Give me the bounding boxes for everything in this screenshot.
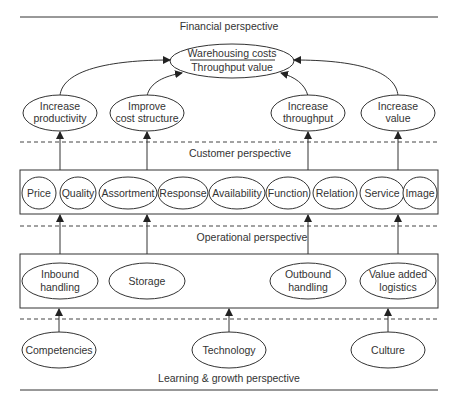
svg-text:logistics: logistics bbox=[379, 281, 416, 293]
svg-text:Increase: Increase bbox=[40, 100, 80, 112]
operational-item-value-added-logistics: Value added logistics bbox=[360, 263, 436, 299]
financial-perspective-label: Financial perspective bbox=[180, 20, 279, 32]
svg-text:Response: Response bbox=[159, 187, 206, 199]
balanced-scorecard-diagram: Financial perspective Warehousing costs … bbox=[0, 0, 457, 407]
svg-text:Increase: Increase bbox=[378, 100, 418, 112]
svg-text:Technology: Technology bbox=[202, 344, 256, 356]
customer-item-image: Image bbox=[403, 177, 437, 209]
svg-text:Value added: Value added bbox=[369, 268, 427, 280]
learning-item-technology: Technology bbox=[192, 332, 266, 368]
customer-item-response: Response bbox=[158, 177, 208, 209]
svg-text:value: value bbox=[385, 112, 410, 124]
arrow-cost-to-ratio bbox=[147, 73, 182, 96]
customer-item-price: Price bbox=[22, 177, 56, 209]
svg-text:Function: Function bbox=[268, 187, 308, 199]
ratio-numerator: Warehousing costs bbox=[188, 47, 277, 59]
svg-text:handling: handling bbox=[288, 281, 328, 293]
svg-text:throughput: throughput bbox=[283, 112, 333, 124]
svg-text:handling: handling bbox=[40, 281, 80, 293]
svg-text:Culture: Culture bbox=[371, 344, 405, 356]
customer-perspective-label: Customer perspective bbox=[189, 147, 291, 159]
arrow-productivity-to-ratio bbox=[60, 60, 170, 96]
svg-text:Storage: Storage bbox=[129, 275, 166, 287]
learning-item-culture: Culture bbox=[351, 332, 425, 368]
svg-text:Availability: Availability bbox=[212, 187, 262, 199]
svg-text:Quality: Quality bbox=[62, 187, 95, 199]
svg-text:Increase: Increase bbox=[288, 100, 328, 112]
goal-improve-cost-structure: Improve cost structure bbox=[110, 95, 184, 131]
svg-text:Outbound: Outbound bbox=[285, 268, 331, 280]
operational-item-outbound-handling: Outbound handling bbox=[270, 263, 346, 299]
svg-text:Service: Service bbox=[364, 187, 399, 199]
goal-increase-productivity: Increase productivity bbox=[23, 95, 97, 131]
svg-text:Image: Image bbox=[405, 187, 434, 199]
learning-perspective-label: Learning & growth perspective bbox=[158, 372, 300, 384]
ratio-node: Warehousing costs Throughput value bbox=[170, 44, 294, 78]
arrow-throughput-to-ratio bbox=[281, 73, 308, 96]
svg-text:Inbound: Inbound bbox=[41, 268, 79, 280]
learning-item-competencies: Competencies bbox=[22, 332, 96, 368]
customer-item-availability: Availability bbox=[209, 177, 265, 209]
ratio-denominator: Throughput value bbox=[191, 61, 273, 73]
goal-increase-value: Increase value bbox=[361, 95, 435, 131]
customer-item-function: Function bbox=[266, 177, 310, 209]
customer-item-assortment: Assortment bbox=[99, 177, 157, 209]
svg-text:productivity: productivity bbox=[33, 112, 87, 124]
operational-item-storage: Storage bbox=[109, 263, 185, 299]
customer-item-quality: Quality bbox=[60, 177, 96, 209]
operational-item-inbound-handling: Inbound handling bbox=[22, 263, 98, 299]
customer-item-relation: Relation bbox=[313, 177, 357, 209]
arrow-value-to-ratio bbox=[294, 60, 398, 96]
svg-text:Improve: Improve bbox=[128, 100, 166, 112]
svg-text:Competencies: Competencies bbox=[25, 344, 92, 356]
goal-increase-throughput: Increase throughput bbox=[271, 95, 345, 131]
customer-item-service: Service bbox=[360, 177, 404, 209]
svg-text:Relation: Relation bbox=[316, 187, 355, 199]
operational-perspective-label: Operational perspective bbox=[197, 231, 308, 243]
svg-text:cost structure: cost structure bbox=[115, 112, 178, 124]
svg-text:Assortment: Assortment bbox=[101, 187, 154, 199]
svg-text:Price: Price bbox=[27, 187, 51, 199]
